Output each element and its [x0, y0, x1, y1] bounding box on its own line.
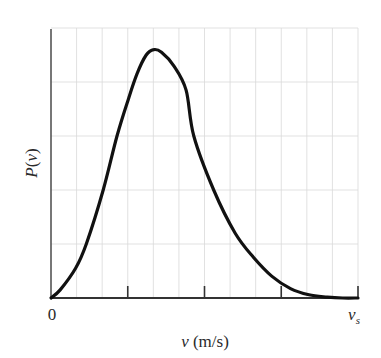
- x-end-label: vs: [348, 305, 360, 326]
- speed-distribution-chart: 0 vs v (m/s) P(v): [0, 0, 381, 358]
- y-axis-label: P(v): [22, 148, 41, 178]
- x-axis-label: v (m/s): [181, 332, 229, 351]
- y-axis-paren-close: ): [22, 148, 41, 154]
- x-axis-units: (m/s): [189, 332, 229, 351]
- x-end-sub: s: [356, 314, 360, 326]
- y-axis-func: P: [22, 167, 41, 178]
- x-origin-label: 0: [48, 305, 57, 324]
- axes: [51, 29, 359, 298]
